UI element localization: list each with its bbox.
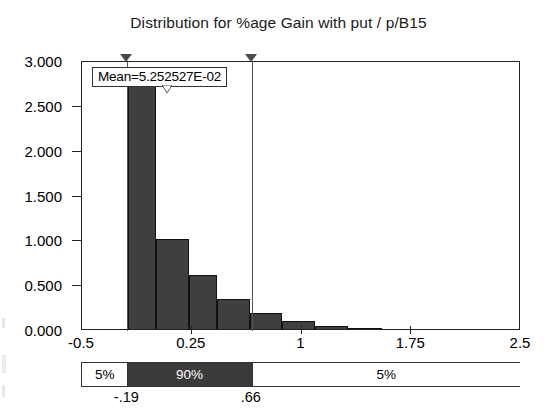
y-tick-mark-4 (72, 151, 81, 152)
percentile-bar[interactable]: 5%90%5% (81, 362, 520, 387)
percentile-divider (252, 363, 253, 386)
x-axis: -0.5 0.25 1 1.75 2.5 (81, 334, 520, 356)
y-tick-mark-2 (72, 240, 81, 241)
distribution-chart: Distribution for %age Gain with put / p/… (0, 0, 557, 415)
percentile-divider (127, 363, 128, 386)
y-tick-label-6: 3.000 (24, 54, 62, 69)
histogram-bar (128, 82, 156, 329)
y-tick-mark-3 (72, 196, 81, 197)
x-tick-mark-1 (191, 326, 192, 334)
y-tick-label-3: 1.500 (24, 188, 62, 203)
y-tick-label-5: 2.500 (24, 98, 62, 113)
y-tick-label-0: 0.000 (24, 323, 62, 338)
x-tick-label-4: 2.5 (510, 334, 531, 351)
x-tick-label-0: -0.5 (68, 334, 94, 351)
x-tick-mark-3 (410, 326, 411, 334)
histogram-bar (250, 313, 282, 329)
y-tick-label-2: 1.000 (24, 233, 62, 248)
y-tick-label-4: 2.000 (24, 143, 62, 158)
percentile-segment[interactable]: 90% (127, 363, 251, 386)
percentile-boundary-label: .66 (241, 389, 261, 405)
plot-area (81, 61, 520, 330)
histogram-bar (282, 321, 314, 329)
mean-pointer-icon (162, 85, 172, 93)
histogram-bar (189, 275, 217, 329)
percentile-segment[interactable]: 5% (82, 363, 127, 386)
x-tick-label-2: 1 (296, 334, 304, 351)
chart-title: Distribution for %age Gain with put / p/… (0, 14, 557, 32)
histogram-bar (348, 328, 382, 329)
y-tick-mark-1 (72, 285, 81, 286)
lower-delimiter-handle[interactable] (120, 54, 132, 62)
y-tick-mark-5 (72, 106, 81, 107)
y-axis: 0.000 0.500 1.000 1.500 2.000 2.500 3.00… (0, 61, 72, 330)
percentile-segment[interactable]: 5% (252, 363, 521, 386)
x-tick-label-1: 0.25 (176, 334, 205, 351)
histogram-bar (156, 239, 189, 329)
histogram-bars (82, 62, 519, 329)
scan-artifact (2, 385, 5, 397)
histogram-bar (315, 326, 349, 329)
upper-delimiter-handle[interactable] (245, 54, 257, 62)
scan-artifact (2, 318, 5, 328)
percentile-boundary-label: -.19 (114, 389, 139, 405)
y-tick-label-1: 0.500 (24, 278, 62, 293)
x-tick-label-3: 1.75 (396, 334, 425, 351)
scan-artifact (2, 355, 6, 373)
upper-delimiter-line (252, 62, 253, 331)
x-tick-mark-2 (301, 326, 302, 334)
lower-delimiter-line (127, 62, 128, 331)
histogram-bar (217, 299, 251, 329)
mean-label-box: Mean=5.252527E-02 (92, 67, 227, 87)
